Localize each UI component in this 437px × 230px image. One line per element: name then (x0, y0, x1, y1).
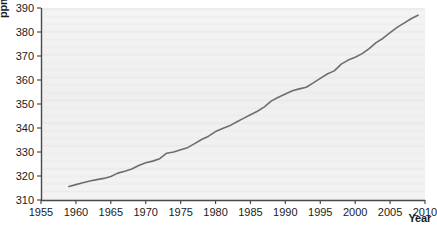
y-axis-title: ppm (0, 0, 10, 18)
svg-text:1955: 1955 (29, 206, 53, 218)
svg-text:2005: 2005 (378, 206, 402, 218)
y-axis-ticks: 310320330340350360370380390 (16, 2, 41, 206)
x-axis-ticks: 1955196019651970197519801985199019952000… (29, 200, 437, 218)
svg-text:320: 320 (16, 170, 34, 182)
svg-text:310: 310 (16, 194, 34, 206)
svg-text:1990: 1990 (273, 206, 297, 218)
svg-text:1980: 1980 (203, 206, 227, 218)
svg-text:380: 380 (16, 26, 34, 38)
svg-text:330: 330 (16, 146, 34, 158)
svg-text:1975: 1975 (168, 206, 192, 218)
svg-text:360: 360 (16, 74, 34, 86)
svg-text:1970: 1970 (133, 206, 157, 218)
plot-area: 310320330340350360370380390 195519601965… (0, 0, 437, 230)
svg-text:340: 340 (16, 122, 34, 134)
svg-text:1995: 1995 (308, 206, 332, 218)
svg-text:370: 370 (16, 50, 34, 62)
plot-background (41, 8, 425, 200)
svg-text:1965: 1965 (99, 206, 123, 218)
svg-text:1960: 1960 (64, 206, 88, 218)
co2-line-chart: ppm Year 310320330340350360370380390 195… (0, 0, 437, 230)
svg-text:2000: 2000 (343, 206, 367, 218)
x-axis-title: Year (409, 212, 431, 224)
svg-text:390: 390 (16, 2, 34, 14)
svg-text:1985: 1985 (238, 206, 262, 218)
svg-text:350: 350 (16, 98, 34, 110)
